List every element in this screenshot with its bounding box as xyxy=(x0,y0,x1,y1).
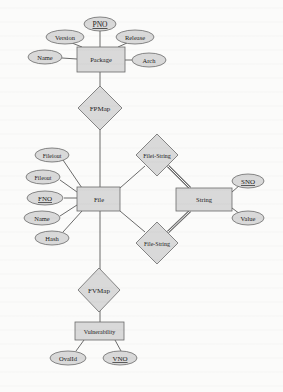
attr-fileout: Fileout xyxy=(26,170,60,184)
rel-fvmap-label: FVMap xyxy=(88,287,110,295)
rel-filei-string-label: Filei-String xyxy=(143,153,171,159)
attr-vno-label: VNO xyxy=(112,355,127,363)
line-file-file-string xyxy=(120,211,145,232)
rel-fvmap: FVMap xyxy=(78,268,120,312)
attr-fno: FNO xyxy=(27,191,63,205)
line-ovalid-vulnerability xyxy=(76,340,84,351)
entity-file: File xyxy=(77,187,120,211)
gap-1 xyxy=(168,166,190,188)
attr-release: Release xyxy=(116,30,154,44)
rel-fpmap: FPMap xyxy=(78,86,122,130)
entity-vulnerability: Vulnerability xyxy=(75,322,124,340)
er-diagram: PNO Version Release Name Arch Package FP… xyxy=(0,0,283,392)
gap-2 xyxy=(168,211,190,232)
attr-pno: PNO xyxy=(84,17,116,31)
attr-value: Value xyxy=(232,211,264,225)
attr-file-name: Name xyxy=(24,211,60,225)
entity-package: Package xyxy=(77,47,125,72)
entity-string: String xyxy=(176,188,232,211)
attr-package-name: Name xyxy=(28,50,62,64)
entity-file-label: File xyxy=(94,196,104,203)
attr-fno-label: FNO xyxy=(38,195,52,203)
attr-hash-label: Hash xyxy=(45,235,59,242)
line-hash-file xyxy=(63,211,82,232)
line-name-file xyxy=(60,205,77,216)
attr-ovalid: OvalId xyxy=(50,351,86,365)
attr-pno-label: PNO xyxy=(92,20,108,29)
attr-fileout-label: Fileout xyxy=(34,175,51,181)
attr-version-label: Version xyxy=(55,34,76,41)
attr-package-name-label: Name xyxy=(37,54,53,61)
attr-ovalid-label: OvalId xyxy=(59,355,78,362)
er-diagram-svg: PNO Version Release Name Arch Package FP… xyxy=(0,0,283,392)
line-release-package xyxy=(118,43,127,47)
line-fileout-file xyxy=(60,180,77,192)
attr-release-label: Release xyxy=(125,34,145,41)
attr-file-name-label: Name xyxy=(34,215,50,222)
attr-version: Version xyxy=(46,30,84,44)
line-vno-vulnerability xyxy=(115,340,121,351)
rel-fpmap-label: FPMap xyxy=(90,105,111,113)
attr-vno: VNO xyxy=(103,351,137,365)
rel-file-string-label: File-String xyxy=(144,241,170,247)
attr-hash: Hash xyxy=(35,231,69,245)
entity-string-label: String xyxy=(196,196,213,203)
attr-arch: Arch xyxy=(132,53,166,67)
attr-fileiout-label: Fileiout xyxy=(43,153,62,159)
attr-value-label: Value xyxy=(241,215,256,222)
entity-vulnerability-label: Vulnerability xyxy=(84,329,116,335)
line-name-package xyxy=(62,58,77,59)
attr-fileiout: Fileiout xyxy=(35,148,69,162)
attr-arch-label: Arch xyxy=(143,57,157,64)
line-file-filei-string xyxy=(120,166,145,188)
attr-sno-label: SNO xyxy=(241,178,255,186)
entity-package-label: Package xyxy=(90,56,112,63)
attr-sno: SNO xyxy=(232,174,264,188)
